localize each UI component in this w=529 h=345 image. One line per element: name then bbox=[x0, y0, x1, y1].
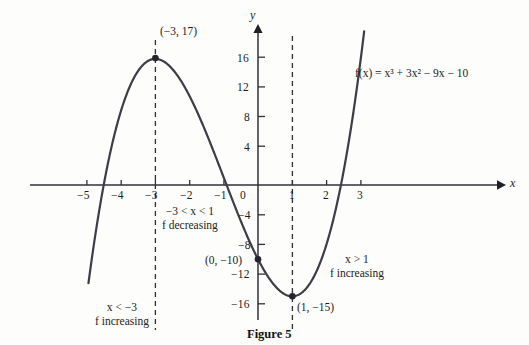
point-y-intercept bbox=[255, 256, 262, 263]
annotation-middle-interval: −3 < x < 1 f decreasing bbox=[162, 204, 218, 233]
x-tick-label--3: −3 bbox=[145, 188, 158, 202]
y-axis-label: y bbox=[250, 8, 255, 23]
x-axis-label: x bbox=[510, 176, 515, 191]
label-local-maximum: (−3, 17) bbox=[160, 24, 197, 38]
point-local-maximum bbox=[152, 55, 159, 62]
x-tick-label--4: −4 bbox=[111, 188, 124, 202]
x-tick-label-2: 2 bbox=[323, 188, 329, 202]
y-tick-label--16: −16 bbox=[231, 297, 250, 311]
label-y-intercept: (0, −10) bbox=[205, 253, 242, 267]
x-tick-label-1: 1 bbox=[289, 188, 295, 202]
label-local-minimum: (1, −15) bbox=[297, 300, 334, 314]
y-tick-label--12: −12 bbox=[231, 267, 250, 281]
annotation-left-interval: x < −3 f increasing bbox=[95, 300, 149, 329]
figure-container: y x −5 −4 −3 −2 −1 0 1 2 3 16 12 8 4 −4 … bbox=[0, 0, 529, 345]
annotation-left-interval-line1: x < −3 bbox=[95, 300, 149, 314]
annotation-right-interval-line1: x > 1 bbox=[330, 252, 384, 266]
point-local-minimum bbox=[289, 293, 296, 300]
y-tick-label--4: −4 bbox=[238, 208, 251, 222]
annotation-middle-interval-line2: f decreasing bbox=[162, 218, 218, 232]
y-tick-label-16: 16 bbox=[237, 51, 249, 65]
x-tick-label--2: −2 bbox=[180, 188, 193, 202]
y-axis bbox=[253, 24, 262, 320]
x-tick-label-0: 0 bbox=[240, 188, 246, 202]
graph-canvas bbox=[0, 0, 529, 345]
figure-caption: Figure 5 bbox=[247, 327, 292, 342]
annotation-left-interval-line2: f increasing bbox=[95, 314, 149, 328]
x-axis bbox=[30, 180, 506, 190]
x-tick-label--1: −1 bbox=[214, 188, 227, 202]
annotation-right-interval-line2: f increasing bbox=[330, 266, 384, 280]
equation-label: f(x) = x³ + 3x² − 9x − 10 bbox=[355, 66, 468, 80]
y-tick-label-8: 8 bbox=[244, 110, 250, 124]
x-tick-label-3: 3 bbox=[357, 188, 363, 202]
annotation-middle-interval-line1: −3 < x < 1 bbox=[162, 204, 218, 218]
y-tick-label-4: 4 bbox=[244, 140, 250, 154]
y-tick-label-12: 12 bbox=[237, 80, 249, 94]
annotation-right-interval: x > 1 f increasing bbox=[330, 252, 384, 281]
x-tick-label--5: −5 bbox=[77, 188, 90, 202]
y-tick-label--8: −8 bbox=[238, 238, 251, 252]
